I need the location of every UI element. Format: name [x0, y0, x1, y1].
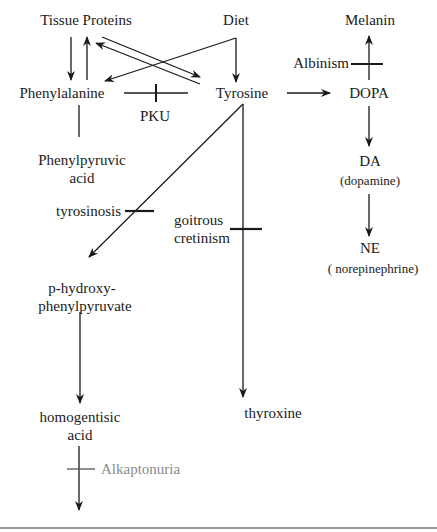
- node-diet: Diet: [223, 12, 249, 29]
- block-label-albinism: Albinism: [293, 55, 349, 72]
- block-label-pku: PKU: [140, 108, 170, 125]
- block-label-goitrous-line1: goitrous: [174, 212, 223, 229]
- node-homogentisic-line1: homogentisic: [40, 409, 121, 426]
- node-melanin: Melanin: [345, 12, 395, 29]
- node-phenylalanine: Phenylalanine: [20, 85, 105, 102]
- pathway-diagram: Tissue Proteins Diet Melanin Phenylalani…: [0, 0, 437, 532]
- node-phenylpyruvic-acid-line1: Phenylpyruvic: [38, 152, 126, 169]
- node-thyroxine: thyroxine: [244, 405, 302, 422]
- block-label-alkaptonuria: Alkaptonuria: [101, 461, 180, 478]
- node-tissue-proteins: Tissue Proteins: [40, 12, 132, 29]
- node-da: DA: [359, 153, 381, 170]
- bottom-rule: [0, 527, 437, 529]
- node-homogentisic-line2: acid: [68, 427, 93, 444]
- arrow-proteins-to-tyrosine: [102, 37, 200, 77]
- arrow-diet-to-phenylalanine: [105, 38, 236, 81]
- node-da-full: (dopamine): [340, 173, 400, 188]
- block-label-goitrous-line2: cretinism: [174, 230, 230, 247]
- node-tyrosine: Tyrosine: [216, 85, 268, 102]
- node-dopa: DOPA: [349, 85, 388, 102]
- block-label-tyrosinosis: tyrosinosis: [56, 203, 121, 220]
- node-ne: NE: [360, 240, 380, 257]
- node-phenylpyruvic-acid-line2: acid: [70, 170, 95, 187]
- node-p-hydroxy-line1: p-hydroxy-: [48, 280, 116, 297]
- node-p-hydroxy-line2: phenylpyruvate: [38, 298, 131, 315]
- node-ne-full: ( norepinephrine): [328, 261, 419, 276]
- arrow-tyrosine-to-proteins: [96, 43, 200, 84]
